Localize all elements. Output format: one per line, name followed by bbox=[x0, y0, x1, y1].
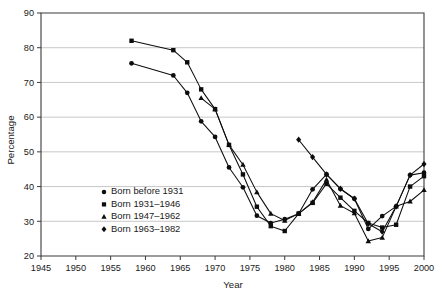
data-point-marker bbox=[255, 205, 259, 209]
grid-lines bbox=[41, 48, 424, 222]
data-point-marker bbox=[254, 189, 259, 194]
legend-marker-circle bbox=[102, 190, 107, 195]
x-tick-label: 1985 bbox=[309, 263, 329, 273]
data-point-marker bbox=[213, 135, 218, 140]
y-axis-ticks: 2030405060708090 bbox=[24, 8, 41, 261]
data-point-marker bbox=[380, 214, 385, 219]
data-point-marker bbox=[199, 87, 203, 91]
data-point-marker bbox=[421, 161, 426, 167]
data-point-marker bbox=[129, 61, 134, 66]
y-axis-title: Percentage bbox=[5, 115, 16, 164]
x-tick-label: 1965 bbox=[170, 263, 190, 273]
chart-container: 2030405060708090 19451950195519601965197… bbox=[0, 0, 442, 299]
legend-marker-square bbox=[102, 202, 106, 206]
data-point-marker bbox=[254, 213, 259, 218]
legend-item-label: Born before 1931 bbox=[111, 185, 183, 196]
x-tick-label: 1955 bbox=[100, 263, 120, 273]
legend-item-label: Born 1947–1962 bbox=[111, 210, 180, 221]
line-chart: 2030405060708090 19451950195519601965197… bbox=[0, 0, 442, 299]
legend-marker-diamond bbox=[102, 226, 107, 232]
y-tick-label: 30 bbox=[24, 217, 34, 227]
x-axis-title: Year bbox=[223, 279, 243, 290]
y-tick-label: 90 bbox=[24, 8, 34, 18]
data-point-marker bbox=[185, 60, 189, 64]
x-tick-label: 1950 bbox=[66, 263, 86, 273]
data-point-marker bbox=[199, 119, 204, 124]
x-tick-label: 1960 bbox=[135, 263, 155, 273]
legend-item-label: Born 1963–1982 bbox=[111, 223, 180, 234]
x-tick-label: 1995 bbox=[379, 263, 399, 273]
data-point-marker bbox=[171, 48, 175, 52]
x-tick-label: 1975 bbox=[240, 263, 260, 273]
x-tick-label: 2000 bbox=[414, 263, 434, 273]
data-point-marker bbox=[269, 224, 273, 228]
x-tick-label: 1945 bbox=[31, 263, 51, 273]
data-point-marker bbox=[283, 229, 287, 233]
data-point-marker bbox=[171, 73, 176, 78]
data-point-marker bbox=[338, 203, 343, 208]
data-point-marker bbox=[394, 223, 398, 227]
legend-marker-triangle bbox=[101, 214, 106, 219]
data-point-marker bbox=[310, 187, 315, 192]
legend-item-label: Born 1931–1946 bbox=[111, 198, 180, 209]
data-point-marker bbox=[198, 95, 203, 100]
data-point-marker bbox=[408, 184, 412, 188]
y-tick-label: 70 bbox=[24, 78, 34, 88]
data-point-marker bbox=[366, 227, 371, 232]
y-tick-label: 80 bbox=[24, 43, 34, 53]
y-tick-label: 20 bbox=[24, 251, 34, 261]
data-point-marker bbox=[408, 172, 413, 178]
x-tick-label: 1970 bbox=[205, 263, 225, 273]
y-tick-label: 40 bbox=[24, 182, 34, 192]
data-point-marker bbox=[421, 187, 426, 192]
data-point-marker bbox=[129, 39, 133, 43]
data-point-marker bbox=[241, 185, 246, 190]
x-tick-label: 1980 bbox=[275, 263, 295, 273]
data-point-marker bbox=[241, 172, 245, 176]
x-axis-ticks: 1945195019551960196519701975198019851990… bbox=[31, 256, 434, 273]
data-point-marker bbox=[379, 235, 384, 240]
data-point-marker bbox=[422, 174, 426, 178]
data-point-marker bbox=[227, 165, 232, 170]
data-point-marker bbox=[338, 195, 342, 199]
data-point-marker bbox=[185, 90, 190, 95]
legend: Born before 1931Born 1931–1946Born 1947–… bbox=[101, 185, 183, 233]
y-tick-label: 60 bbox=[24, 112, 34, 122]
y-tick-label: 50 bbox=[24, 147, 34, 157]
x-tick-label: 1990 bbox=[344, 263, 364, 273]
